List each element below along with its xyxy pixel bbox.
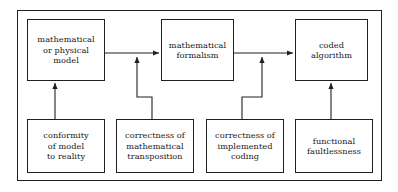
- diagram-root: mathematical or physical model mathemati…: [0, 0, 398, 192]
- node-correctness-of-mathematical-transposition: correctness of mathematical transpositio…: [116, 119, 194, 173]
- node-mathematical-formalism: mathematical formalism: [161, 19, 234, 81]
- node-conformity-of-model-to-reality: conformity of model to reality: [27, 119, 105, 173]
- node-label: coded algorithm: [298, 40, 365, 61]
- node-label: correctness of mathematical transpositio…: [119, 130, 191, 161]
- node-functional-faultlessness: functional faultlessness: [295, 119, 373, 173]
- node-label: conformity of model to reality: [30, 130, 102, 161]
- diagram-node-layer: mathematical or physical model mathemati…: [0, 0, 398, 192]
- node-correctness-of-implemented-coding: correctness of implemented coding: [206, 119, 284, 173]
- node-label: correctness of implemented coding: [209, 130, 281, 161]
- node-mathematical-or-physical-model: mathematical or physical model: [27, 19, 105, 81]
- node-coded-algorithm: coded algorithm: [295, 19, 368, 81]
- node-label: mathematical or physical model: [30, 34, 102, 65]
- node-label: functional faultlessness: [298, 136, 370, 157]
- node-label: mathematical formalism: [164, 40, 231, 61]
